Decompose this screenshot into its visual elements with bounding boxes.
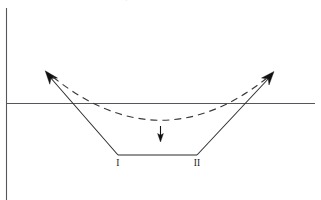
well-left-branch xyxy=(50,77,119,156)
right-arrowhead-icon xyxy=(262,72,275,86)
state-label-two: II xyxy=(194,158,201,168)
state-label-one: I xyxy=(116,158,119,168)
diagram-canvas: I II xyxy=(0,0,321,200)
left-arrowhead-icon xyxy=(45,71,57,84)
figure-container: schematic of the reaction coordinate pro… xyxy=(0,0,321,200)
well-right-branch xyxy=(197,78,270,156)
